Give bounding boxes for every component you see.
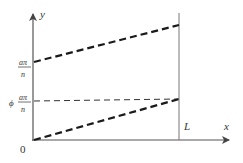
upper-thick-dashed-line	[34, 25, 179, 62]
svg-text:aπ: aπ	[19, 93, 28, 102]
upper-y-tick-label: aπ n	[18, 58, 31, 79]
svg-text:ϕ: ϕ	[9, 98, 14, 108]
lower-thick-dashed-line	[34, 99, 179, 140]
phi-thin-dashed-line	[34, 99, 179, 101]
diagram: y x L 0 aπ n ϕ aπ n	[0, 0, 243, 163]
origin-label: 0	[20, 143, 26, 155]
svg-text:aπ: aπ	[19, 58, 28, 67]
L-label: L	[183, 120, 190, 132]
y-axis-label: y	[39, 8, 45, 20]
x-axis-label: x	[223, 120, 229, 132]
phi-y-tick-label: ϕ aπ n	[9, 93, 31, 114]
svg-text:n: n	[21, 105, 25, 114]
svg-text:n: n	[21, 70, 25, 79]
